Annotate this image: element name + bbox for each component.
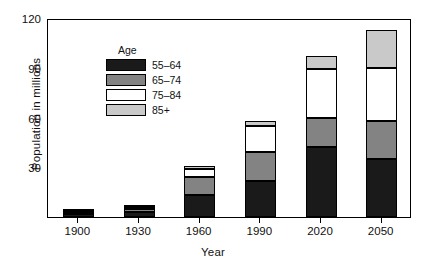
- x-tick-label: 1960: [186, 225, 212, 237]
- x-tick-mark: [259, 218, 260, 223]
- x-tick-label: 1900: [65, 225, 91, 237]
- bar-1990[interactable]: [245, 18, 276, 217]
- bar-2050[interactable]: [366, 18, 397, 217]
- bar-segment: [366, 121, 397, 159]
- bar-segment: [366, 68, 397, 121]
- legend-item[interactable]: 75–84: [106, 89, 181, 101]
- bar-segment: [366, 159, 397, 217]
- x-tick-label: 1930: [125, 225, 151, 237]
- bar-segment: [245, 121, 276, 126]
- plot-area: Age 55–6465–7475–8485+: [47, 19, 411, 218]
- bar-segment: [245, 152, 276, 180]
- bar-segment: [124, 212, 155, 217]
- bar-segment: [184, 177, 215, 195]
- bar-segment: [306, 56, 337, 69]
- y-tick-label: 120: [0, 13, 41, 25]
- legend-swatch: [106, 89, 146, 101]
- bar-segment: [366, 30, 397, 68]
- y-tick-label: 30: [0, 162, 41, 174]
- bar-segment: [184, 195, 215, 217]
- bar-1900[interactable]: [63, 18, 94, 217]
- bar-segment: [63, 209, 94, 211]
- y-tick-label: 60: [0, 113, 41, 125]
- x-axis-label: Year: [0, 246, 426, 258]
- legend-label: 65–74: [152, 75, 181, 86]
- legend-label: 75–84: [152, 90, 181, 101]
- bar-segment: [306, 147, 337, 217]
- chart-figure: Population in millions Year 306090120 Ag…: [0, 0, 426, 266]
- y-tick-label: 90: [0, 63, 41, 75]
- bar-segment: [245, 126, 276, 153]
- legend-items: 55–6465–7475–8485+: [106, 59, 181, 116]
- bar-1960[interactable]: [184, 18, 215, 217]
- bar-segment: [63, 214, 94, 217]
- x-tick-mark: [138, 218, 139, 223]
- legend-item[interactable]: 55–64: [106, 59, 181, 71]
- legend-swatch: [106, 74, 146, 86]
- legend-item[interactable]: 85+: [106, 104, 181, 116]
- bar-segment: [245, 181, 276, 217]
- bar-segment: [184, 169, 215, 177]
- x-tick-label: 1990: [247, 225, 273, 237]
- bar-segment: [124, 209, 155, 212]
- legend-label: 85+: [152, 105, 170, 116]
- legend-title: Age: [118, 44, 181, 56]
- x-tick-mark: [199, 218, 200, 223]
- x-tick-label: 2050: [368, 225, 394, 237]
- x-tick-mark: [77, 218, 78, 223]
- legend-swatch: [106, 104, 146, 116]
- bar-segment: [306, 69, 337, 117]
- legend-swatch: [106, 59, 146, 71]
- x-tick-label: 2020: [307, 225, 333, 237]
- bar-segment: [184, 166, 215, 168]
- legend-label: 55–64: [152, 60, 181, 71]
- x-tick-mark: [320, 218, 321, 223]
- bar-2020[interactable]: [306, 18, 337, 217]
- legend-item[interactable]: 65–74: [106, 74, 181, 86]
- chart-legend: Age 55–6465–7475–8485+: [106, 44, 181, 119]
- bar-segment: [306, 118, 337, 148]
- x-tick-mark: [381, 218, 382, 223]
- bar-segment: [124, 205, 155, 207]
